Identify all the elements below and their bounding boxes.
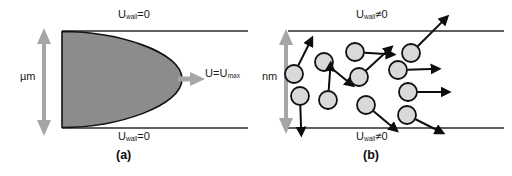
wall-label-top-a-sub: wall [126,13,137,20]
figure-container: Uwall=0 Uwall=0 U=Umax µm (a) [0,0,512,176]
wall-label-bottom-b: Uwall≠0 [356,131,388,143]
wall-label-bottom-a-sub: wall [126,135,137,142]
molecule-group [285,17,449,135]
molecule-particle [398,106,416,124]
parabolic-velocity-profile [62,32,182,128]
wall-label-top-b-sub: wall [364,13,375,20]
wall-label-bottom-a: Uwall=0 [118,131,150,143]
velocity-vector-arrow [300,105,301,135]
panel-caption-a: (a) [116,148,131,162]
molecule-particle [319,91,337,109]
molecule-particle [291,87,309,105]
max-velocity-label: U=Umax [205,68,240,80]
scale-label-micrometer: µm [20,70,36,82]
velocity-vector-arrow [366,47,392,71]
velocity-vector-arrow [298,38,312,66]
velocity-vector-arrow [415,119,443,133]
wall-label-top-b-main: U [356,8,364,20]
molecule-particle [399,83,417,101]
scale-label-nanometer: nm [262,70,277,82]
panel-a: Uwall=0 Uwall=0 U=Umax µm (a) [0,0,256,176]
wall-label-top-b: Uwall≠0 [356,9,388,21]
molecule-particle [285,65,303,83]
wall-label-top-a-rel: =0 [137,8,150,20]
molecule-particle [402,44,420,62]
wall-label-top-b-rel: ≠0 [375,8,387,20]
wall-label-bottom-b-main: U [356,130,364,142]
panel-caption-b: (b) [363,148,379,162]
wall-label-bottom-a-main: U [118,130,126,142]
panel-b-graphics [256,0,512,176]
molecule-particle [357,96,375,114]
height-dimension-arrow [37,28,51,136]
wall-label-top-a-main: U [118,8,126,20]
molecule-particle [389,61,407,79]
velocity-vector-arrow [364,53,394,55]
molecule-particle [346,43,364,61]
velocity-vector-arrow [407,69,439,70]
wall-label-bottom-a-rel: =0 [137,130,150,142]
max-velocity-label-sub: max [228,72,240,79]
wall-label-bottom-b-rel: ≠0 [375,130,387,142]
wall-label-bottom-b-sub: wall [364,135,375,142]
max-velocity-label-main: U=U [205,67,228,79]
wall-label-top-a: Uwall=0 [118,9,150,21]
panel-b: Uwall≠0 Uwall≠0 nm (b) [256,0,512,176]
molecule-particle [350,68,368,86]
